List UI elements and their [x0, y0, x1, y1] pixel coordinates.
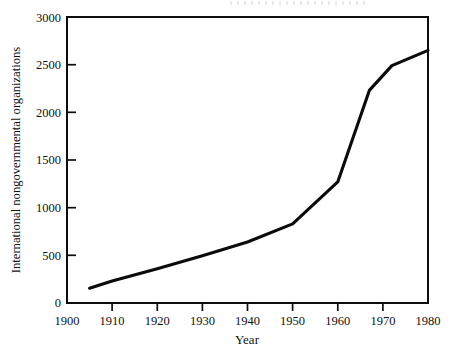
- x-tick-label-1920: 1920: [145, 314, 170, 328]
- x-axis-title: Year: [235, 332, 260, 347]
- y-axis-title: International nongovernmental organizati…: [9, 47, 23, 273]
- y-tick-label-3000: 3000: [36, 11, 61, 25]
- x-tick-label-1970: 1970: [370, 314, 395, 328]
- x-tick-label-1940: 1940: [235, 314, 260, 328]
- y-tick-label-2500: 2500: [36, 58, 61, 72]
- x-axis-tick-labels: 1900 1910 1920 1930 1940 1950 1960 1970 …: [55, 314, 441, 328]
- x-tick-label-1930: 1930: [190, 314, 215, 328]
- line-chart-plot: 0 500 1000 1500 2000 2500 3000 1900 1910…: [0, 0, 459, 350]
- x-tick-label-1950: 1950: [280, 314, 305, 328]
- y-tick-label-1500: 1500: [36, 153, 61, 167]
- y-tick-label-500: 500: [42, 249, 61, 263]
- y-axis-tick-labels: 0 500 1000 1500 2000 2500 3000: [36, 11, 61, 311]
- series-line-ingos: [90, 50, 428, 288]
- y-axis-ticks: [67, 65, 76, 256]
- plot-frame: [67, 17, 428, 303]
- x-tick-label-1980: 1980: [416, 314, 441, 328]
- y-tick-label-2000: 2000: [36, 106, 61, 120]
- x-tick-label-1960: 1960: [325, 314, 350, 328]
- chart-figure: 0 500 1000 1500 2000 2500 3000 1900 1910…: [0, 0, 459, 350]
- y-tick-label-1000: 1000: [36, 201, 61, 215]
- x-axis-ticks: [112, 303, 383, 311]
- x-tick-label-1910: 1910: [100, 314, 125, 328]
- y-tick-label-0: 0: [55, 296, 61, 310]
- x-tick-label-1900: 1900: [55, 314, 80, 328]
